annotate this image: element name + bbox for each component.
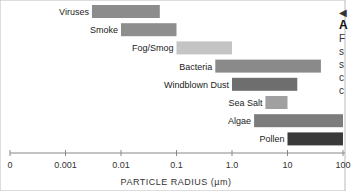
bar-label: Windblown Dust [164,80,230,90]
bar-label: Fog/Smog [132,43,174,53]
side-line: c [339,84,348,97]
bar-label: Smoke [90,25,118,35]
x-axis-label: PARTICLE RADIUS (µm) [121,177,232,187]
bar-sea-salt [265,96,287,109]
bar-label: Bacteria [179,62,212,72]
bar-label: Viruses [59,7,89,17]
x-tick-label: 10 [282,160,292,170]
bar-pollen [288,132,344,145]
bar-windblown-dust [232,78,297,91]
bar-viruses [92,5,160,18]
x-tick-label: 0.01 [112,160,130,170]
bar-bacteria [215,60,321,73]
bar-label: Algae [228,116,251,126]
bar-smoke [121,23,177,36]
arrow-icon: ◀ [339,7,347,18]
bar-label: Pollen [259,134,284,144]
x-tick-label: 0.001 [54,160,77,170]
side-heading: A [339,19,348,32]
bar-algae [254,114,343,127]
x-tick-label: 1.0 [226,160,239,170]
side-text: ◀ A F s s c c [339,6,348,97]
side-line: c [339,71,348,84]
side-line: s [339,45,348,58]
side-line: s [339,58,348,71]
side-line: F [339,32,348,45]
x-tick-label: 0 [7,160,12,170]
particle-radius-chart: VirusesSmokeFog/SmogBacteriaWindblown Du… [0,0,355,191]
chart-container: VirusesSmokeFog/SmogBacteriaWindblown Du… [0,0,355,191]
bar-fog-smog [177,41,233,54]
x-tick-label: 0.1 [170,160,183,170]
x-tick-label: 100 [335,160,350,170]
bar-label: Sea Salt [228,98,263,108]
